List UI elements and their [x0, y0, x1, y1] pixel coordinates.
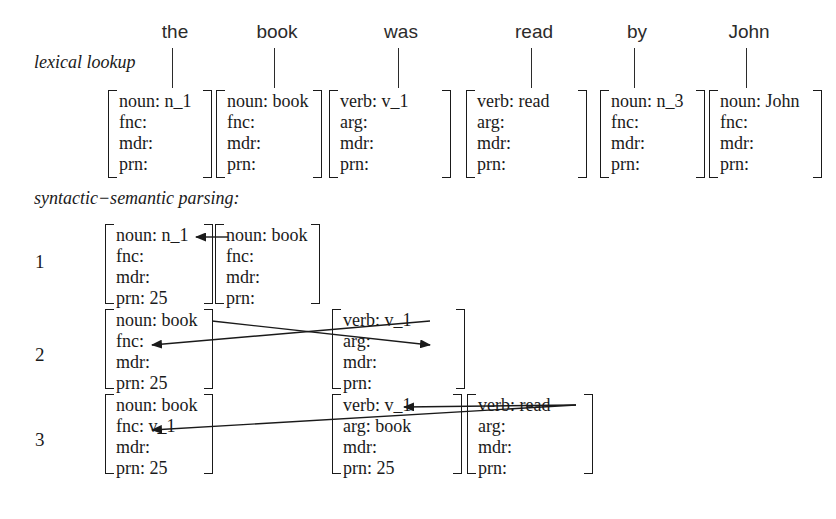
right-bracket-icon [313, 90, 322, 178]
attribute-line: prn: [226, 288, 311, 309]
feature-structure-box: noun: n_3fnc:mdr:prn: [600, 90, 705, 178]
attribute-line: noun: n_1 [116, 225, 204, 246]
attribute-line: fnc: [720, 112, 813, 133]
right-bracket-icon [203, 90, 212, 178]
attribute-line: verb: read [478, 395, 584, 416]
attribute-line: verb: v_1 [343, 395, 453, 416]
right-bracket-icon [696, 90, 705, 178]
attribute-line: noun: n_1 [119, 91, 203, 112]
feature-structure-box: noun: bookfnc:mdr:prn: 25 [105, 309, 213, 389]
attribute-line: mdr: [226, 267, 311, 288]
attribute-line: noun: n_3 [611, 91, 696, 112]
attribute-list: noun: Johnfnc:mdr:prn: [720, 91, 813, 175]
feature-structure-box: noun: n_1fnc:mdr:prn: 25 [105, 224, 213, 304]
left-bracket-icon [215, 224, 224, 304]
attribute-line: noun: John [720, 91, 813, 112]
parsing-row-number: 3 [35, 430, 45, 450]
right-bracket-icon [204, 224, 213, 304]
attribute-line: fnc: v_1 [116, 416, 204, 437]
attribute-line: prn: [343, 373, 456, 394]
left-bracket-icon [216, 90, 225, 178]
word-connector-line [172, 48, 173, 88]
attribute-line: noun: book [227, 91, 313, 112]
attribute-line: prn: [478, 458, 584, 479]
right-bracket-icon [311, 224, 320, 304]
attribute-line: mdr: [119, 133, 203, 154]
word-connector-line [398, 48, 399, 88]
left-bracket-icon [332, 394, 341, 474]
sentence-word-was: was [384, 22, 418, 42]
attribute-line: fnc: [227, 112, 313, 133]
right-bracket-icon [204, 309, 213, 389]
attribute-line: prn: [227, 154, 313, 175]
attribute-list: verb: v_1arg: bookmdr:prn: 25 [343, 395, 453, 479]
right-bracket-icon [204, 394, 213, 474]
attribute-line: arg: [343, 331, 456, 352]
attribute-line: noun: book [116, 310, 204, 331]
attribute-list: noun: bookfnc:mdr:prn: [226, 225, 311, 309]
right-bracket-icon [584, 394, 593, 474]
attribute-line: prn: [477, 154, 578, 175]
attribute-list: verb: v_1arg:mdr:prn: [340, 91, 442, 175]
feature-structure-box: verb: v_1arg:mdr:prn: [332, 309, 465, 389]
attribute-line: fnc: [116, 331, 204, 352]
attribute-line: mdr: [116, 352, 204, 373]
attribute-list: noun: bookfnc:mdr:prn: 25 [116, 310, 204, 394]
right-bracket-icon [578, 90, 587, 178]
attribute-list: noun: bookfnc: v_1mdr:prn: 25 [116, 395, 204, 479]
attribute-line: verb: v_1 [343, 310, 456, 331]
feature-structure-box: noun: n_1fnc:mdr:prn: [108, 90, 212, 178]
word-connector-line [746, 48, 747, 88]
attribute-list: noun: n_3fnc:mdr:prn: [611, 91, 696, 175]
attribute-line: fnc: [226, 246, 311, 267]
left-bracket-icon [105, 394, 114, 474]
left-bracket-icon [466, 90, 475, 178]
attribute-line: arg: [478, 416, 584, 437]
attribute-line: mdr: [611, 133, 696, 154]
feature-structure-box: verb: v_1arg: bookmdr:prn: 25 [332, 394, 462, 474]
attribute-line: mdr: [343, 437, 453, 458]
attribute-line: prn: [119, 154, 203, 175]
attribute-line: prn: [611, 154, 696, 175]
attribute-line: fnc: [116, 246, 204, 267]
right-bracket-icon [813, 90, 822, 178]
word-connector-line [531, 48, 532, 88]
attribute-list: verb: readarg:mdr:prn: [477, 91, 578, 175]
left-bracket-icon [332, 309, 341, 389]
attribute-line: prn: [340, 154, 442, 175]
left-bracket-icon [600, 90, 609, 178]
feature-structure-box: verb: v_1arg:mdr:prn: [329, 90, 451, 178]
attribute-line: noun: book [226, 225, 311, 246]
attribute-line: arg: [477, 112, 578, 133]
left-bracket-icon [709, 90, 718, 178]
feature-structure-box: verb: readarg:mdr:prn: [467, 394, 593, 474]
feature-structure-box: noun: bookfnc:mdr:prn: [215, 224, 320, 304]
attribute-list: verb: readarg:mdr:prn: [478, 395, 584, 479]
left-bracket-icon [467, 394, 476, 474]
left-bracket-icon [108, 90, 117, 178]
parsing-row-number: 1 [35, 252, 45, 272]
attribute-line: mdr: [720, 133, 813, 154]
lexical-lookup-caption: lexical lookup [34, 52, 135, 72]
attribute-line: fnc: [119, 112, 203, 133]
attribute-line: arg: [340, 112, 442, 133]
parsing-figure: thebookwasreadbyJohn lexical lookup synt… [0, 0, 836, 519]
attribute-list: verb: v_1arg:mdr:prn: [343, 310, 456, 394]
right-bracket-icon [442, 90, 451, 178]
attribute-line: verb: read [477, 91, 578, 112]
attribute-line: mdr: [227, 133, 313, 154]
sentence-word-book: book [256, 22, 297, 42]
attribute-line: prn: 25 [116, 373, 204, 394]
word-connector-line [634, 48, 635, 88]
attribute-line: prn: 25 [343, 458, 453, 479]
left-bracket-icon [105, 224, 114, 304]
attribute-line: prn: 25 [116, 288, 204, 309]
attribute-line: arg: book [343, 416, 453, 437]
word-connector-line [274, 48, 275, 88]
attribute-line: mdr: [116, 437, 204, 458]
sentence-word-by: by [627, 22, 647, 42]
feature-structure-box: noun: bookfnc:mdr:prn: [216, 90, 322, 178]
attribute-line: fnc: [611, 112, 696, 133]
attribute-list: noun: bookfnc:mdr:prn: [227, 91, 313, 175]
attribute-line: mdr: [343, 352, 456, 373]
